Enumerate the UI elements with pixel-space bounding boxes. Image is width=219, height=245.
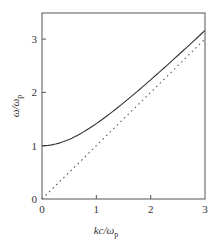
x-axis-label: kc/ωp (94, 224, 119, 239)
x-tick-label: 0 (39, 203, 45, 215)
y-axis-label: ω/ωp (9, 95, 24, 118)
x-tick-label: 3 (202, 203, 208, 215)
light-line (42, 39, 205, 199)
plot-frame (42, 13, 205, 199)
x-tick-label: 1 (94, 203, 100, 215)
y-tick-label: 2 (32, 86, 38, 98)
y-axis-ticks: 0123 (32, 33, 47, 205)
x-tick-label: 2 (148, 203, 154, 215)
dispersion-curve (42, 30, 205, 145)
x-axis-ticks: 0123 (39, 195, 208, 215)
dispersion-chart: 0123 0123 kc/ωp ω/ωp (0, 0, 219, 245)
y-tick-label: 0 (32, 193, 38, 205)
y-tick-label: 3 (32, 33, 38, 45)
y-tick-label: 1 (32, 140, 38, 152)
